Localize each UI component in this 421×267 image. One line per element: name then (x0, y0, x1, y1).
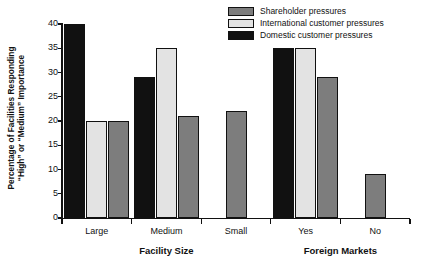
x-tick-label-medium: Medium (150, 226, 182, 237)
bar-chart-figure: Shareholder pressures International cust… (0, 0, 421, 267)
group-title-facility-size: Facility Size (139, 245, 193, 256)
y-tick-label-0: 0 (18, 213, 58, 222)
x-tick-mark-0 (61, 219, 62, 224)
x-tick-label-small: Small (225, 226, 248, 237)
bar-large-domestic (64, 24, 85, 218)
y-tick-label-30: 30 (18, 68, 58, 77)
bar-yes-domestic (273, 48, 294, 218)
y-tick-label-10: 10 (18, 165, 58, 174)
bar-small-shareholder (226, 111, 247, 218)
legend-item-shareholder-pressures: Shareholder pressures (228, 6, 384, 17)
x-tick-mark-4 (340, 219, 341, 224)
y-tick-label-20: 20 (18, 116, 58, 125)
group-title-foreign-markets: Foreign Markets (304, 245, 377, 256)
bar-no-shareholder (365, 174, 386, 218)
x-tick-label-large: Large (85, 226, 108, 237)
bar-yes-international (295, 48, 316, 218)
x-tick-label-yes: Yes (298, 226, 313, 237)
y-axis-tick-labels: 4035302520151050 (14, 24, 58, 218)
bar-large-international (86, 121, 107, 218)
bar-yes-shareholder (317, 77, 338, 218)
x-axis-group-titles: Facility SizeForeign Markets (62, 245, 410, 259)
bar-medium-domestic (134, 77, 155, 218)
y-tick-label-15: 15 (18, 140, 58, 149)
x-tick-mark-5 (409, 219, 410, 224)
x-axis-ticks (62, 219, 410, 225)
legend-swatch-icon-shareholder (228, 7, 254, 16)
bar-medium-international (156, 48, 177, 218)
legend-label-shareholder: Shareholder pressures (260, 7, 346, 16)
y-tick-label-5: 5 (18, 189, 58, 198)
bar-medium-shareholder (178, 116, 199, 218)
y-tick-label-40: 40 (18, 19, 58, 28)
x-tick-mark-3 (270, 219, 271, 224)
y-tick-label-35: 35 (18, 43, 58, 52)
x-tick-mark-2 (201, 219, 202, 224)
plot-area (62, 24, 410, 218)
bar-large-shareholder (108, 121, 129, 218)
x-tick-label-no: No (369, 226, 381, 237)
y-tick-label-25: 25 (18, 92, 58, 101)
x-axis-category-labels: LargeMediumSmallYesNo (62, 226, 410, 240)
x-tick-mark-1 (131, 219, 132, 224)
